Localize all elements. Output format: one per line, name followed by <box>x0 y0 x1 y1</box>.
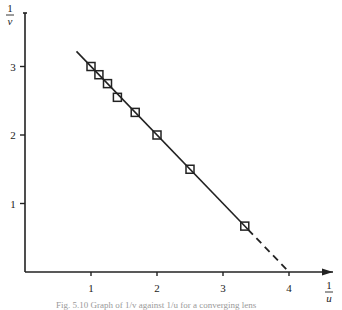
y-tick-label: 3 <box>10 61 16 73</box>
x-axis-label-denominator: u <box>326 292 332 304</box>
y-axis-label-denominator: v <box>8 15 13 27</box>
y-tick-label: 1 <box>10 198 16 210</box>
axes <box>23 13 333 276</box>
axis-labels: 1v1u <box>6 2 333 304</box>
x-axis-label: 1u <box>325 279 333 304</box>
y-axis-label-numerator: 1 <box>7 2 13 14</box>
x-axis-label-numerator: 1 <box>326 279 332 291</box>
x-axis-arrow-icon <box>322 269 333 276</box>
ticks: 1234123 <box>10 61 292 295</box>
y-axis-label: 1v <box>6 2 14 27</box>
fit-line <box>76 51 289 272</box>
figure-caption: Fig. 5.10 Graph of 1/v against 1/u for a… <box>56 300 256 310</box>
x-tick-label: 4 <box>286 282 292 294</box>
x-tick-label: 2 <box>154 282 160 294</box>
x-tick-label: 1 <box>88 282 94 294</box>
fit-line-dashed <box>248 230 289 272</box>
y-tick-label: 2 <box>10 129 16 141</box>
x-tick-label: 3 <box>220 282 226 294</box>
